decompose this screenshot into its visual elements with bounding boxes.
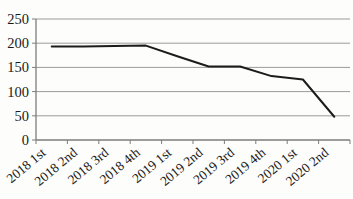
chart-canvas: 0501001502002502018 1st2018 2nd2018 3rd2… xyxy=(0,0,353,199)
y-axis-tick-label: 100 xyxy=(7,84,29,100)
y-axis-tick-label: 0 xyxy=(22,132,29,148)
line-chart-figure: 0501001502002502018 1st2018 2nd2018 3rd2… xyxy=(0,0,353,199)
y-axis-tick-label: 250 xyxy=(7,11,29,27)
y-axis-tick-label: 200 xyxy=(7,35,29,51)
y-axis-tick-label: 150 xyxy=(7,59,29,75)
data-line-series xyxy=(52,46,335,117)
y-axis-tick-label: 50 xyxy=(15,108,30,124)
